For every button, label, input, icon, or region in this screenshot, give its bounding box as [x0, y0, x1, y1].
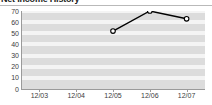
- data-point-marker[interactable]: [184, 17, 189, 22]
- data-point-marker[interactable]: [111, 29, 116, 34]
- y-axis-tick-label: 0: [0, 86, 19, 93]
- y-axis-tick-label: 50: [0, 30, 19, 37]
- y-axis-tick-labels: 010203040506070: [0, 0, 19, 105]
- y-axis-tick-label: 60: [0, 19, 19, 26]
- y-axis-tick-label: 40: [0, 41, 19, 48]
- x-axis-tick-label: 12/03: [22, 92, 56, 100]
- series-line-net-income: [113, 11, 187, 31]
- x-axis-tick-mark: [150, 89, 151, 92]
- x-axis-tick-label: 12/04: [59, 92, 93, 100]
- title-divider: [0, 5, 212, 6]
- data-point-marker[interactable]: [148, 11, 153, 13]
- x-axis-tick-mark: [39, 89, 40, 92]
- x-axis-tick-mark: [113, 89, 114, 92]
- x-axis-tick-mark: [76, 89, 77, 92]
- x-axis-tick-labels: 12/0312/0412/0512/0612/07: [21, 92, 205, 102]
- x-axis-tick-label: 12/06: [133, 92, 167, 100]
- x-axis-tick-label: 12/05: [96, 92, 130, 100]
- x-axis-tick-mark: [187, 89, 188, 92]
- y-axis-tick-label: 20: [0, 63, 19, 70]
- x-axis-tick-label: 12/07: [170, 92, 204, 100]
- data-series-line: [21, 11, 205, 89]
- net-income-history-chart-widget: Net Income History 010203040506070 12/03…: [0, 0, 212, 105]
- y-axis-tick-label: 30: [0, 52, 19, 59]
- y-axis-tick-label: 70: [0, 8, 19, 15]
- y-axis-tick-label: 10: [0, 74, 19, 81]
